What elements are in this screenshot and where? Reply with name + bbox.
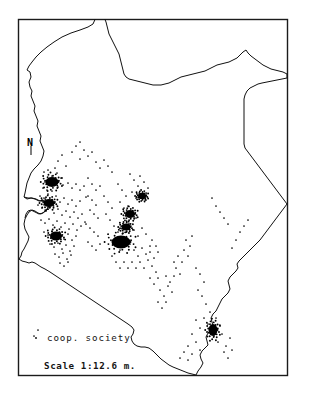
coop-society-dot xyxy=(61,214,63,216)
coop-society-dot xyxy=(137,185,139,187)
coop-society-dot xyxy=(144,200,146,202)
coop-society-dot xyxy=(57,208,59,210)
coop-society-dot xyxy=(137,255,139,257)
coop-society-dot xyxy=(187,255,189,257)
coop-society-dot xyxy=(219,324,221,326)
coop-society-dot xyxy=(99,243,101,245)
coop-society-dot xyxy=(84,221,86,223)
coop-society-dot xyxy=(75,235,77,237)
coop-society-dot xyxy=(73,245,75,247)
coop-society-dot xyxy=(89,227,91,229)
coop-society-dot xyxy=(155,271,157,273)
coop-society-dot xyxy=(191,235,193,237)
coop-society-dot xyxy=(142,191,144,193)
legend-dot-symbol xyxy=(35,337,37,339)
coop-society-dot xyxy=(37,204,39,206)
coop-society-dot xyxy=(103,159,105,161)
coop-society-dot xyxy=(163,295,165,297)
coop-society-dot xyxy=(120,230,122,232)
coop-society-dot xyxy=(136,214,138,216)
coop-society-dot xyxy=(128,223,130,225)
coop-society-dot xyxy=(136,196,138,198)
coop-society-dot xyxy=(157,301,159,303)
coop-society-dot xyxy=(73,211,75,213)
coop-society-dot xyxy=(97,217,99,219)
coop-society-dot xyxy=(145,253,147,255)
coop-society-dot xyxy=(107,233,109,235)
coop-society-dot xyxy=(51,196,53,198)
coop-society-dot xyxy=(47,174,49,176)
coop-society-dot xyxy=(75,145,77,147)
coop-society-dot xyxy=(126,209,128,211)
coop-society-dot xyxy=(129,229,131,231)
coop-society-dot xyxy=(53,205,55,207)
coop-society-dot xyxy=(131,261,133,263)
coop-society-dot xyxy=(140,200,142,202)
coop-society-dot xyxy=(55,173,57,175)
coop-society-dot xyxy=(54,242,56,244)
coop-society-dot xyxy=(41,199,43,201)
coop-society-dot xyxy=(135,236,137,238)
coop-society-dot xyxy=(61,185,63,187)
coop-society-dot xyxy=(59,243,61,245)
coop-society-dot xyxy=(121,189,123,191)
coop-society-dot xyxy=(130,223,132,225)
coop-society-dot xyxy=(58,256,60,258)
coop-society-dot xyxy=(138,201,140,203)
coop-society-dot xyxy=(56,172,58,174)
coop-society-dot xyxy=(135,267,137,269)
coop-society-dot xyxy=(140,189,142,191)
coop-society-dot xyxy=(61,234,63,236)
coop-society-dot xyxy=(44,209,46,211)
coop-society-dot xyxy=(207,327,209,329)
coop-society-dot xyxy=(149,245,151,247)
coop-society-dot xyxy=(189,245,191,247)
coop-society-dot xyxy=(149,277,151,279)
coop-society-dot xyxy=(55,177,57,179)
coop-society-dot xyxy=(219,211,221,213)
coop-society-dot xyxy=(132,207,134,209)
coop-society-dot xyxy=(115,232,117,234)
coop-society-dot xyxy=(119,224,121,226)
coop-society-dot xyxy=(169,281,171,283)
coop-society-dot xyxy=(113,225,115,227)
coop-society-dot xyxy=(125,217,127,219)
coop-society-dot xyxy=(125,236,127,238)
coop-society-dot xyxy=(132,229,134,231)
coop-society-dot xyxy=(205,303,207,305)
coop-society-dot xyxy=(43,204,45,206)
coop-society-dot xyxy=(175,267,177,269)
coop-society-dot xyxy=(42,183,44,185)
coop-society-dot xyxy=(59,262,61,264)
coop-society-dot xyxy=(61,177,63,179)
coop-society-dot xyxy=(131,227,133,229)
coop-society-dot xyxy=(65,210,67,212)
coop-society-dot xyxy=(133,243,135,245)
coop-society-dot xyxy=(151,265,153,267)
north-indicator-label: N xyxy=(27,137,33,148)
coop-society-dot xyxy=(124,219,126,221)
coop-society-dot xyxy=(136,191,138,193)
coop-society-dot xyxy=(209,311,211,313)
coop-society-dot xyxy=(44,206,46,208)
coop-society-dot xyxy=(44,180,46,182)
coop-society-dot xyxy=(44,222,46,224)
coop-society-dot xyxy=(45,196,47,198)
coop-society-dot xyxy=(122,232,124,234)
coop-society-dot xyxy=(104,241,106,243)
coop-society-dot xyxy=(204,329,206,331)
coop-society-dot xyxy=(55,190,57,192)
coop-society-dot xyxy=(218,331,220,333)
coop-society-dot xyxy=(161,307,163,309)
coop-society-dot xyxy=(97,235,99,237)
coop-society-dot xyxy=(70,254,72,256)
coop-society-dot xyxy=(167,285,169,287)
coop-society-dot xyxy=(179,357,181,359)
coop-society-dot xyxy=(56,199,58,201)
coop-society-dot xyxy=(95,249,97,251)
coop-society-dot xyxy=(165,275,167,277)
coop-society-dot xyxy=(55,203,57,205)
coop-society-dot xyxy=(47,237,49,239)
coop-society-dot xyxy=(209,323,211,325)
coop-society-dot xyxy=(211,197,213,199)
